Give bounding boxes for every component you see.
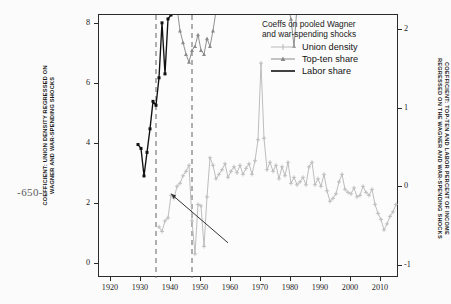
x-tick-label-1940: 1940 [155,283,185,292]
legend-label: Union density [302,42,358,52]
left-axis-title: COEFFICIENT: UNION DENSITY REGRESSED ON … [42,55,57,215]
right-tick-mark [398,108,402,109]
x-tick-label-1950: 1950 [185,283,215,292]
series-union-density [157,61,398,256]
right-tick-mark [398,186,402,187]
left-tick-label-4: 4 [74,138,90,147]
x-tick-mark [170,277,171,281]
x-tick-label-2010: 2010 [365,283,395,292]
left-tick-mark [94,203,98,204]
right-tick-mark [398,265,402,266]
left-tick-label-8: 8 [74,18,90,27]
legend-entries: Union densityTop-ten shareLabor share [252,42,391,76]
plus-marker [270,42,296,52]
x-tick-mark [350,277,351,281]
left-tick-label-2: 2 [74,198,90,207]
x-tick-mark [380,277,381,281]
legend-entry-top-ten-share[interactable]: Top-ten share [252,54,391,64]
right-tick-label-0: 0 [404,181,420,190]
x-tick-mark [290,277,291,281]
right-tick-mark [398,29,402,30]
x-tick-mark [230,277,231,281]
left-tick-mark [94,23,98,24]
left-tick-mark [94,83,98,84]
x-tick-label-2000: 2000 [335,283,365,292]
right-axis-title: COEFFICIENT: TOP-TEN AND LABOR PERCENT O… [436,48,451,248]
x-tick-label-1920: 1920 [95,283,125,292]
legend-label: Labor share [302,66,351,76]
x-tick-label-1970: 1970 [245,283,275,292]
x-tick-mark [140,277,141,281]
x-tick-mark [110,277,111,281]
x-tick-label-1960: 1960 [215,283,245,292]
left-tick-label-6: 6 [74,78,90,87]
legend-entry-union-density[interactable]: Union density [252,42,391,52]
left-tick-label-0: 0 [74,258,90,267]
right-tick-label--1: -1 [404,260,420,269]
legend-label: Top-ten share [302,54,358,64]
chart-figure: COEFFICIENT: UNION DENSITY REGRESSED ON … [0,0,451,304]
x-tick-label-1930: 1930 [125,283,155,292]
legend-title: Coeffs on pooled Wagner and war-spending… [252,19,391,40]
right-tick-label-1: 1 [404,103,420,112]
line-marker [270,66,296,76]
right-tick-label-2: 2 [404,24,420,33]
x-tick-label-1980: 1980 [275,283,305,292]
x-tick-mark [260,277,261,281]
triangle-marker [270,54,296,64]
x-tick-mark [200,277,201,281]
left-tick-mark [94,143,98,144]
x-tick-label-1990: 1990 [305,283,335,292]
x-tick-mark [320,277,321,281]
figure-page: -650- COEFFICIENT: UNION DENSITY REGRESS… [0,0,451,304]
trend-arrow-annotation [171,194,228,243]
legend-entry-labor-share[interactable]: Labor share [252,66,391,76]
chart-legend: Coeffs on pooled Wagner and war-spending… [247,16,395,79]
left-tick-mark [94,263,98,264]
